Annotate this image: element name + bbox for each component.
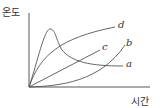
y-axis-label: 온도 <box>2 4 20 19</box>
curve-label-d: d <box>118 19 124 30</box>
curve-label-c: c <box>102 41 108 52</box>
chart-plot <box>0 0 160 108</box>
curve-c <box>29 50 100 87</box>
curve-d <box>29 27 115 87</box>
x-axis-label: 시간 <box>131 93 149 108</box>
curve-label-a: a <box>126 58 132 69</box>
curve-label-b: b <box>126 37 132 48</box>
